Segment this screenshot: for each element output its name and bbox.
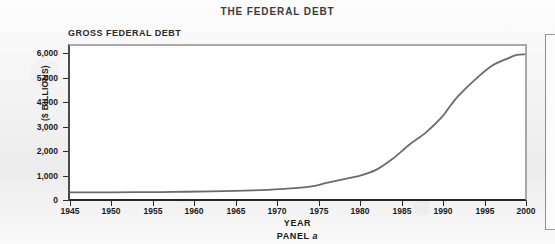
panel-caption-prefix: PANEL	[277, 231, 310, 241]
panel-title: GROSS FEDERAL DEBT	[68, 28, 181, 38]
y-tick-label: 5,000	[22, 73, 58, 83]
plot-area	[70, 46, 525, 199]
x-tick-label: 1960	[174, 206, 214, 216]
y-tick-label: 3,000	[22, 122, 58, 132]
y-tick-label: 4,000	[22, 97, 58, 107]
x-tick-label: 2000	[506, 206, 546, 216]
y-tick-label: 2,000	[22, 146, 58, 156]
x-tick-label: 1970	[257, 206, 297, 216]
x-tick-label: 1945	[50, 206, 90, 216]
x-tick-label: 1955	[133, 206, 173, 216]
gross-federal-debt-line	[70, 54, 525, 192]
x-tick-label: 1985	[382, 206, 422, 216]
x-tick-label: 1950	[91, 206, 131, 216]
x-tick-label: 1990	[423, 206, 463, 216]
plot-frame	[68, 44, 527, 201]
x-tick-label: 1995	[465, 206, 505, 216]
panel-caption-letter: a	[313, 231, 319, 241]
adjacent-panel-edge	[545, 34, 555, 230]
y-tick-label: 0	[22, 195, 58, 205]
debt-line-chart	[70, 46, 525, 199]
y-tick-label: 1,000	[22, 171, 58, 181]
figure-title: THE FEDERAL DEBT	[0, 6, 555, 17]
x-axis-title: YEAR	[68, 218, 527, 228]
x-tick-label: 1965	[216, 206, 256, 216]
figure-screenshot: THE FEDERAL DEBT GROSS FEDERAL DEBT ($ B…	[0, 0, 555, 244]
x-tick-label: 1975	[299, 206, 339, 216]
panel-caption: PANEL a	[68, 231, 527, 241]
y-tick-label: 6,000	[22, 48, 58, 58]
x-tick-label: 1980	[340, 206, 380, 216]
